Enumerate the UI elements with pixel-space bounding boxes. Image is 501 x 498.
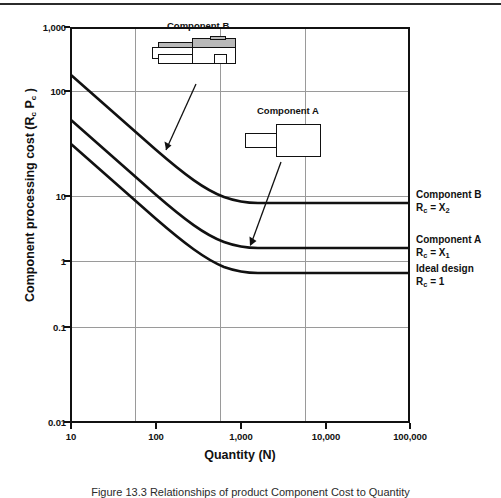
y-tick-label-1000: 1,000 (4, 22, 66, 33)
component-b-shade-cap (210, 36, 226, 40)
series-label-component-a: Component A Rc = X1 (416, 234, 481, 260)
series-label-component-b-sub: c (423, 206, 427, 215)
x-axis-title: Quantity (N) (70, 448, 410, 462)
y-axis-title-sub1: c (29, 112, 38, 116)
y-tick-label-0-1: 0.1 (4, 322, 66, 333)
series-label-component-b-sub2: 2 (445, 206, 449, 215)
x-tick-mark-1000 (240, 423, 242, 429)
gridline-y-0-1 (72, 327, 408, 328)
y-axis-title-mid: P (23, 100, 37, 112)
series-label-component-a-line1: Component A (416, 234, 481, 245)
component-b-body-notch (214, 54, 227, 64)
series-label-component-a-sub: c (423, 251, 427, 260)
x-tick-mark-10000 (325, 423, 327, 429)
component-a-drawing (245, 122, 321, 158)
series-label-ideal-design-sub: c (423, 280, 427, 289)
series-label-ideal-design-line1: Ideal design (416, 263, 474, 274)
component-a-body-small (245, 133, 279, 148)
series-label-ideal-design-line2-post: = 1 (427, 276, 444, 287)
x-tick-mark-100000 (409, 423, 411, 429)
gridline-x-1000 (220, 29, 221, 421)
x-tick-label-100000: 100,000 (393, 431, 427, 442)
component-a-body-large (276, 124, 321, 157)
series-label-ideal-design: Ideal design Rc = 1 (416, 263, 474, 289)
series-label-component-b-line1: Component B (416, 189, 482, 200)
figure-13-3: 1,000 100 10 1 0.1 0.01 10 100 1,000 10,… (0, 0, 501, 498)
series-label-component-a-sub2: 1 (445, 251, 449, 260)
x-tick-label-10000: 10,000 (312, 431, 340, 442)
component-b-drawing (152, 36, 238, 68)
x-tick-label-1000: 1,000 (229, 431, 252, 442)
gridline-y-10 (72, 196, 408, 197)
y-axis-title: Component processing cost (Rc Pc ) (23, 75, 37, 315)
gridline-x-100 (135, 29, 136, 421)
series-label-component-a-line2-post: = X (427, 247, 445, 258)
gridline-x-10000 (305, 29, 306, 421)
y-tick-label-0-01: 0.01 (4, 417, 66, 428)
y-axis-title-end: ) (23, 88, 37, 96)
component-b-callout-title: Component B (167, 20, 229, 31)
y-axis-title-text: Component processing cost (R (23, 116, 37, 301)
y-axis-title-sub2: c (29, 96, 38, 100)
series-label-component-b-line2-post: = X (427, 202, 445, 213)
series-label-component-b: Component B Rc = X2 (416, 189, 482, 215)
component-a-callout-title: Component A (257, 105, 319, 116)
x-tick-mark-100 (155, 423, 157, 429)
x-tick-label-100: 100 (148, 431, 164, 442)
x-tick-mark-10 (70, 423, 72, 429)
plot-area (70, 27, 410, 423)
gridline-y-1 (72, 261, 408, 262)
component-b-body-stem (158, 54, 194, 64)
figure-caption: Figure 13.3 Relationships of product Com… (0, 486, 501, 498)
gridline-y-100 (72, 91, 408, 92)
x-tick-label-10: 10 (66, 431, 76, 442)
